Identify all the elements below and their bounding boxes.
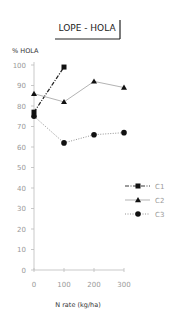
- legend-marker: [136, 184, 141, 189]
- series-line-c3: [34, 116, 124, 143]
- y-tick-label: 80: [17, 103, 26, 111]
- legend-label: C3: [155, 211, 164, 219]
- series-c2: [31, 78, 127, 104]
- legend-item-c1: C1: [125, 183, 164, 191]
- y-tick-label: 70: [17, 123, 26, 131]
- data-point-c3: [91, 132, 97, 138]
- series-line-c1: [34, 67, 64, 112]
- x-tick-label: 200: [87, 281, 100, 289]
- y-tick-label: 60: [17, 144, 26, 152]
- data-point-c2: [31, 91, 37, 96]
- legend-item-c2: C2: [125, 197, 164, 205]
- chart-title: LOPE - HOLA: [58, 23, 116, 33]
- y-tick-label: 100: [13, 62, 26, 70]
- y-tick-label: 50: [17, 164, 26, 172]
- x-tick-label: 0: [32, 281, 36, 289]
- chart: LOPE - HOLA % HOLA N rate (kg/ha) 010203…: [0, 0, 190, 324]
- series-c3: [31, 113, 127, 145]
- y-tick-label: 20: [17, 226, 26, 234]
- data-point-c1: [62, 65, 67, 70]
- title-box: LOPE - HOLA: [55, 20, 120, 39]
- x-axis-label: N rate (kg/ha): [55, 301, 100, 309]
- data-point-c3: [121, 130, 127, 136]
- x-tick-label: 300: [117, 281, 130, 289]
- y-tick-label: 30: [17, 205, 26, 213]
- x-tick-label: 100: [57, 281, 70, 289]
- y-tick-label: 90: [17, 82, 26, 90]
- data-point-c3: [31, 113, 37, 119]
- y-tick-label: 40: [17, 185, 26, 193]
- legend-item-c3: C3: [125, 211, 164, 219]
- legend-label: C1: [155, 183, 164, 191]
- legend-label: C2: [155, 197, 164, 205]
- series-c1: [32, 65, 67, 115]
- data-point-c2: [91, 78, 97, 83]
- y-tick-label: 10: [17, 246, 26, 254]
- data-point-c3: [61, 140, 67, 146]
- y-axis-label: % HOLA: [12, 47, 39, 55]
- legend-marker: [135, 211, 141, 217]
- y-tick-label: 0: [22, 267, 26, 275]
